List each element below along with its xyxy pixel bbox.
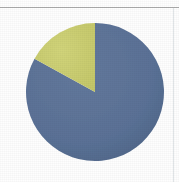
pie-chart-canvas (0, 0, 179, 182)
pie-chart-figure (0, 0, 179, 182)
top-horizontal-rule (0, 7, 179, 8)
